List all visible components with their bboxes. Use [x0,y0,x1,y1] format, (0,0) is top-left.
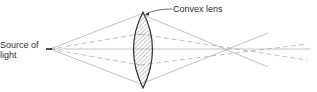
source-label-line1: Source of [0,40,39,50]
lens-label: Convex lens [173,4,223,14]
source-label-line2: light [0,50,39,60]
dashed-rays [50,34,307,65]
convex-lens [134,12,153,88]
lens-label-leader [146,9,172,14]
ray-diagram-svg [0,0,317,92]
convex-lens-diagram: Source of light Convex lens [0,0,317,92]
leader-arrowhead [145,12,149,16]
source-label: Source of light [0,40,39,60]
